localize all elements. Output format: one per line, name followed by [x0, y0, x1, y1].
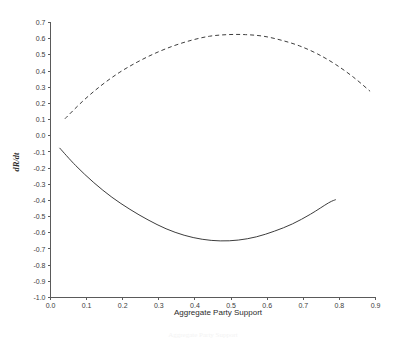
y-tick-label: -0.6 [33, 229, 45, 236]
x-tick-label: 0.6 [262, 302, 272, 309]
x-tick-label: 0.0 [46, 302, 56, 309]
chart-plot: 0.70.60.50.40.30.20.10.0-0.1-0.2-0.3-0.4… [0, 0, 406, 342]
y-axis-title: dR/dt [11, 152, 21, 172]
y-tick-label: 0.5 [36, 51, 46, 58]
y-tick-label: -0.3 [33, 181, 45, 188]
y-tick-label: -0.9 [33, 278, 45, 285]
x-tick-label: 0.2 [118, 302, 128, 309]
y-tick-label: 0.3 [36, 84, 46, 91]
y-tick-label: 0.2 [36, 100, 46, 107]
y-tick-label: 0.6 [36, 35, 46, 42]
y-tick-label: -0.1 [33, 149, 45, 156]
x-tick-label: 0.8 [335, 302, 345, 309]
x-axis-title: Aggregate Party Support [174, 308, 263, 317]
data-series-line [65, 34, 370, 118]
figure-caption: Aggregate Party Support [0, 331, 406, 339]
y-tick-label: 0.0 [36, 132, 46, 139]
data-series-line [60, 148, 336, 241]
y-tick-label: 0.1 [36, 116, 46, 123]
y-tick-label: -0.8 [33, 262, 45, 269]
y-tick-label: -1.0 [33, 294, 45, 301]
x-tick-label: 0.9 [371, 302, 381, 309]
x-tick-label: 0.3 [154, 302, 164, 309]
x-tick-label: 0.7 [298, 302, 308, 309]
figure-container: 0.70.60.50.40.30.20.10.0-0.1-0.2-0.3-0.4… [0, 0, 406, 342]
y-tick-label: 0.7 [36, 19, 46, 26]
data-series-group [60, 34, 371, 240]
y-axis: 0.70.60.50.40.30.20.10.0-0.1-0.2-0.3-0.4… [33, 19, 50, 301]
x-tick-label: 0.1 [82, 302, 92, 309]
y-tick-label: -0.7 [33, 246, 45, 253]
y-tick-label: -0.2 [33, 165, 45, 172]
y-tick-label: 0.4 [36, 68, 46, 75]
x-axis: 0.00.10.20.30.40.50.60.70.80.9 [46, 298, 381, 309]
y-tick-label: -0.5 [33, 213, 45, 220]
y-tick-label: -0.4 [33, 197, 45, 204]
